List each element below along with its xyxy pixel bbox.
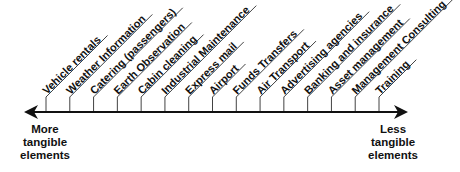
left-end-label: More tangible elements [20,123,70,161]
tangibility-diagram: Vehicle rentalsWeather InformationCateri… [0,0,460,172]
spectrum-item: Funds Transfers [230,27,304,112]
left-end-label-line-3: elements [20,149,70,161]
right-end-label-line-3: elements [368,149,418,161]
right-end-label-line-1: Less [380,123,406,135]
spectrum-item: Vehicle rentals [40,33,108,112]
left-end-label-line-1: More [31,123,58,135]
left-end-label-line-2: tangible [23,136,67,148]
right-end-label: Less tangible elements [368,123,418,161]
spectrum-items: Vehicle rentalsWeather InformationCateri… [40,0,453,112]
right-end-label-line-2: tangible [371,136,415,148]
